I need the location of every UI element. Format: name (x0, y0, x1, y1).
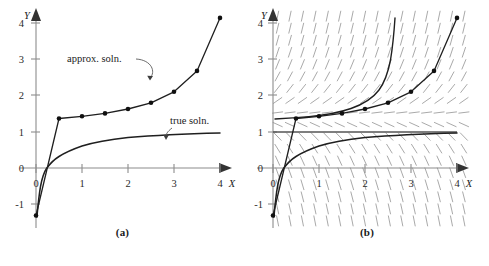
slope-segment (277, 216, 279, 227)
slope-segment (409, 112, 420, 113)
figure-root: 4 3 2 1 0 -1 0 1 2 3 4 Y X (0, 0, 489, 266)
slope-segment (401, 204, 403, 215)
panel-b-caption: (b) (245, 226, 489, 238)
slope-segment (411, 144, 417, 153)
true-soln-leader-arrow (163, 135, 168, 140)
slope-segment (338, 192, 341, 203)
y-tick-label-neg1-a: -1 (15, 199, 24, 210)
slope-segment (425, 204, 427, 215)
slope-segment (401, 216, 403, 227)
slope-segment (372, 122, 382, 127)
slope-segment (338, 59, 342, 69)
slope-segment (301, 168, 305, 178)
y-tick-label-0-b: 0 (258, 163, 263, 174)
slope-segment (309, 112, 320, 113)
slope-segment (450, 204, 452, 215)
slope-segment (424, 144, 430, 153)
slope-segment (450, 216, 452, 227)
slope-segment (425, 35, 428, 46)
slope-segment (401, 11, 403, 22)
true-soln-label: true soln. (170, 115, 209, 126)
slope-segment (301, 216, 303, 227)
slope-segment (437, 156, 442, 166)
slope-segment (413, 204, 415, 215)
slope-segment (363, 47, 366, 57)
y-tick-label-3-a: 3 (19, 54, 24, 65)
slope-segment (400, 180, 403, 191)
slope-segment (325, 168, 329, 178)
slope-segment (337, 156, 342, 166)
x-tick-label-4-b: 4 (454, 178, 460, 189)
slope-segment (361, 84, 368, 93)
slope-segment (376, 192, 379, 203)
slope-segment (425, 59, 429, 69)
slope-segment (326, 23, 329, 34)
slope-segment (400, 168, 404, 178)
y-tick-label-2-b: 2 (258, 90, 263, 101)
x-tick-label-1-a: 1 (79, 178, 84, 189)
slope-segment (347, 122, 357, 127)
slope-segment (426, 216, 428, 227)
slope-segment (463, 192, 466, 203)
slope-segment (376, 11, 378, 22)
slope-segment (401, 23, 404, 34)
slope-segment (351, 192, 354, 203)
slope-segment (449, 59, 453, 69)
blowup-solution-curve-b (275, 18, 395, 119)
slope-segment (461, 144, 467, 153)
slope-segment (314, 192, 317, 203)
slope-segment (338, 168, 342, 178)
slope-segment (288, 168, 292, 178)
slope-segment (323, 133, 331, 141)
slope-segment (339, 204, 341, 215)
slope-segment (438, 11, 440, 22)
slope-segment (338, 23, 341, 34)
x-tick-label-2-b: 2 (362, 178, 367, 189)
slope-segment (423, 84, 430, 93)
slope-segment (313, 35, 316, 46)
slope-segment (450, 192, 453, 203)
approx-soln-label: approx. soln. (67, 53, 122, 64)
panel-b: 4 3 2 1 0 -1 0 1 2 3 4 Y X (245, 0, 489, 240)
slope-segment (400, 59, 404, 69)
y-tick-label-3-b: 3 (258, 54, 263, 65)
slope-segment (413, 11, 415, 22)
x-tick-label-2-a: 2 (125, 178, 130, 189)
slope-segment (399, 72, 404, 82)
slope-segment (463, 11, 465, 22)
slope-segment (363, 204, 365, 215)
slope-segment (386, 144, 392, 153)
slope-segment (323, 97, 332, 103)
slope-segment (362, 144, 368, 153)
slope-segment (301, 11, 303, 22)
approx-soln-leader (136, 59, 153, 78)
slope-segment (322, 122, 332, 127)
slope-segment (301, 204, 303, 215)
slope-segment (301, 47, 304, 57)
slope-segment (348, 97, 357, 103)
slope-segment (325, 72, 330, 82)
slope-segment (350, 156, 355, 166)
slope-segment (273, 97, 282, 103)
slope-segment (324, 144, 330, 153)
slope-segment (438, 35, 441, 46)
slope-segment (461, 84, 468, 93)
slope-segment (363, 11, 365, 22)
slope-segment (449, 156, 454, 166)
slope-segment (413, 192, 416, 203)
slope-segment (336, 133, 344, 141)
slope-segment (339, 11, 341, 22)
slope-segment (359, 112, 370, 113)
true-solution-curve-a (37, 133, 220, 217)
slope-segment (324, 84, 331, 93)
slope-segment (459, 97, 468, 103)
slope-segment (463, 23, 466, 34)
slope-segment (388, 192, 391, 203)
slope-segment (450, 11, 452, 22)
slope-segment (335, 122, 345, 127)
slope-segment (289, 216, 291, 227)
slope-segment (450, 168, 454, 178)
slope-segment (438, 216, 440, 227)
slope-segment (375, 59, 379, 69)
slope-segment (448, 84, 455, 93)
